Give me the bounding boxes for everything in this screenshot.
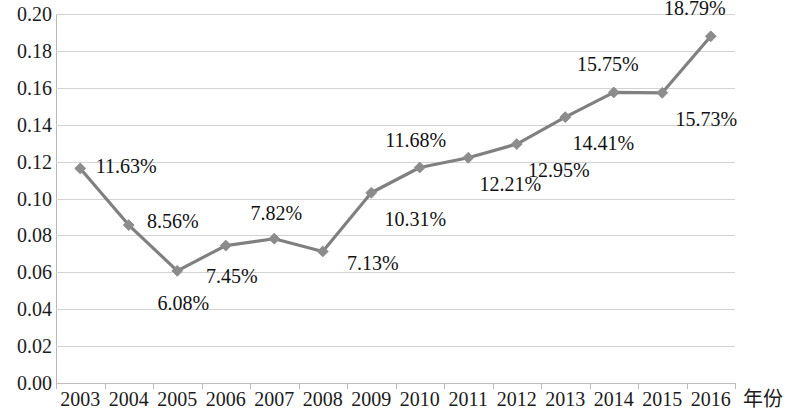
- data-point-marker: [269, 233, 280, 244]
- x-axis-tick-label: 2006: [206, 386, 246, 413]
- y-axis-tick-label: 0.16: [0, 78, 52, 98]
- x-axis-tick-label: 2016: [691, 386, 731, 413]
- x-axis-tick-label: 2005: [157, 386, 197, 413]
- x-axis-title: 年份: [743, 386, 783, 413]
- data-point-label: 7.82%: [250, 203, 302, 223]
- x-axis-tick-label: 2012: [497, 386, 537, 413]
- y-axis-tick-label: 0.04: [0, 299, 52, 319]
- data-point-marker: [220, 240, 231, 251]
- y-axis-tick-label: 0.10: [0, 189, 52, 209]
- x-axis-tick-label: 2013: [545, 386, 585, 413]
- x-axis-tick-label: 2003: [60, 386, 100, 413]
- data-point-label: 15.75%: [577, 54, 639, 74]
- data-point-label: 12.95%: [528, 160, 590, 180]
- y-axis-tick-label: 0.02: [0, 336, 52, 356]
- data-point-label: 6.08%: [157, 293, 209, 313]
- y-axis-tick-label: 0.08: [0, 225, 52, 245]
- data-point-marker: [414, 162, 425, 173]
- y-axis-tick-label: 0.06: [0, 262, 52, 282]
- data-point-marker: [463, 152, 474, 163]
- x-axis-tick-label: 2011: [449, 386, 488, 413]
- data-point-label: 18.79%: [664, 0, 726, 18]
- data-point-label: 7.13%: [347, 253, 399, 273]
- x-axis-labels: 2003200420052006200720082009201020112012…: [56, 386, 735, 413]
- x-axis-tick-label: 2004: [109, 386, 149, 413]
- y-axis-labels: 0.200.180.160.140.120.100.080.060.040.02…: [0, 0, 52, 413]
- y-axis-tick-label: 0.14: [0, 115, 52, 135]
- x-axis-tick-label: 2008: [303, 386, 343, 413]
- data-point-label: 7.45%: [206, 266, 258, 286]
- x-axis-tick-mark: [735, 383, 736, 389]
- x-axis-tick-label: 2009: [351, 386, 391, 413]
- x-axis-tick-label: 2015: [642, 386, 682, 413]
- y-axis-tick-label: 0.18: [0, 41, 52, 61]
- x-axis-tick-label: 2010: [400, 386, 440, 413]
- plot-area: 11.63%8.56%6.08%7.45%7.82%7.13%10.31%11.…: [56, 14, 735, 383]
- y-axis-tick-label: 0.20: [0, 4, 52, 24]
- data-point-label: 11.68%: [385, 130, 446, 150]
- data-point-label: 8.56%: [147, 211, 199, 231]
- data-point-label: 11.63%: [96, 156, 157, 176]
- x-axis-tick-label: 2007: [254, 386, 294, 413]
- data-point-label: 14.41%: [572, 133, 634, 153]
- line-chart: 0.200.180.160.140.120.100.080.060.040.02…: [0, 0, 790, 413]
- y-axis-tick-label: 0.00: [0, 373, 52, 393]
- y-axis-tick-label: 0.12: [0, 152, 52, 172]
- data-point-marker: [608, 87, 619, 98]
- data-point-label: 10.31%: [384, 209, 446, 229]
- x-axis-tick-label: 2014: [594, 386, 634, 413]
- data-point-label: 15.73%: [675, 109, 737, 129]
